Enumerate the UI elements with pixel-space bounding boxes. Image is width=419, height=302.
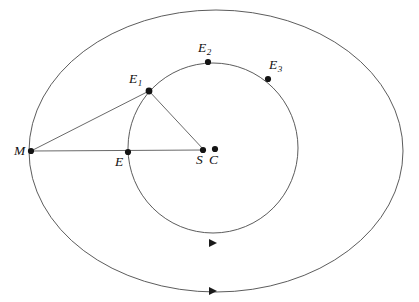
point-dot-m bbox=[28, 148, 34, 154]
segment-m-to-s bbox=[31, 150, 204, 151]
point-dot-e1 bbox=[146, 88, 153, 95]
point-label-e3: E3 bbox=[269, 58, 282, 72]
point-label-s: S bbox=[196, 153, 203, 167]
point-dot-e bbox=[125, 149, 131, 155]
point-label-e1-subscript: 1 bbox=[138, 78, 143, 88]
point-label-e1: E1 bbox=[129, 72, 142, 86]
segment-e1-to-s bbox=[149, 91, 204, 150]
point-label-e: E bbox=[115, 155, 123, 169]
point-label-s-text: S bbox=[196, 152, 203, 167]
direction-arrow-outer-icon bbox=[209, 287, 217, 295]
point-label-m-text: M bbox=[14, 143, 25, 158]
point-label-c: C bbox=[209, 153, 218, 167]
point-label-e3-base: E bbox=[269, 57, 277, 72]
point-label-e1-base: E bbox=[129, 71, 137, 86]
point-label-e2-subscript: 2 bbox=[207, 47, 212, 57]
point-label-m: M bbox=[14, 144, 25, 158]
point-label-e2: E2 bbox=[198, 41, 211, 55]
segment-m-to-e1 bbox=[31, 91, 149, 151]
direction-arrow-inner-icon bbox=[209, 239, 217, 247]
point-label-e3-subscript: 3 bbox=[278, 64, 283, 74]
point-label-e-text: E bbox=[115, 154, 123, 169]
geometry-diagram: M E S C E1 E2 E3 bbox=[0, 0, 419, 302]
point-label-c-text: C bbox=[209, 152, 218, 167]
point-dot-e2 bbox=[205, 59, 211, 65]
point-dot-e3 bbox=[265, 76, 271, 82]
point-label-e2-base: E bbox=[198, 40, 206, 55]
